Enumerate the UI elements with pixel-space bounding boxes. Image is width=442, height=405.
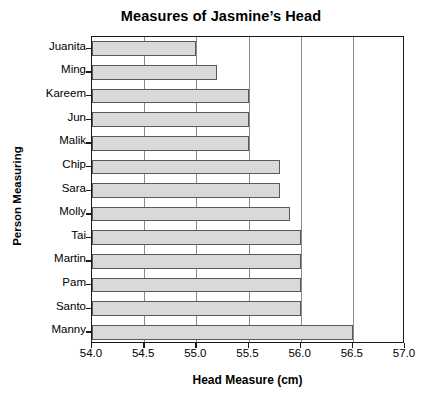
y-tick-label: Santo xyxy=(0,300,86,312)
x-tick-label: 56.0 xyxy=(270,347,330,359)
y-tick-label: Pam xyxy=(0,276,86,288)
y-tick-mark xyxy=(86,260,91,261)
x-tick-label: 54.5 xyxy=(113,347,173,359)
y-tick-mark xyxy=(86,119,91,120)
y-tick-mark xyxy=(86,95,91,96)
y-tick-label: Malik xyxy=(0,134,86,146)
x-tick-label: 55.0 xyxy=(165,347,225,359)
y-tick-mark xyxy=(86,213,91,214)
y-tick-mark xyxy=(86,237,91,238)
y-tick-label: Sara xyxy=(0,182,86,194)
x-tick-label: 55.5 xyxy=(218,347,278,359)
y-tick-mark xyxy=(86,308,91,309)
y-tick-label: Chip xyxy=(0,158,86,170)
bar-chart-figure: Measures of Jasmine’s Head Person Measur… xyxy=(0,0,442,405)
y-tick-mark xyxy=(86,48,91,49)
chart-title: Measures of Jasmine’s Head xyxy=(0,8,442,24)
y-tick-mark xyxy=(86,166,91,167)
y-tick-label: Martin xyxy=(0,252,86,264)
x-axis-title: Head Measure (cm) xyxy=(91,373,404,387)
y-tick-mark xyxy=(86,142,91,143)
x-axis-tick-labels: 54.054.555.055.556.056.557.0 xyxy=(0,347,442,367)
y-tick-label: Jun xyxy=(0,111,86,123)
y-tick-mark xyxy=(86,71,91,72)
y-tick-label: Kareem xyxy=(0,87,86,99)
y-tick-mark xyxy=(86,284,91,285)
y-tick-label: Manny xyxy=(0,323,86,335)
y-tick-label: Ming xyxy=(0,63,86,75)
x-tick-label: 54.0 xyxy=(61,347,121,359)
y-tick-mark xyxy=(86,190,91,191)
x-tick-label: 57.0 xyxy=(374,347,434,359)
x-tick-label: 56.5 xyxy=(322,347,382,359)
y-tick-mark xyxy=(86,331,91,332)
y-tick-label: Molly xyxy=(0,205,86,217)
y-tick-label: Juanita xyxy=(0,40,86,52)
y-axis-tick-labels: JuanitaMingKareemJunMalikChipSaraMollyTa… xyxy=(0,36,442,343)
y-tick-label: Tai xyxy=(0,229,86,241)
